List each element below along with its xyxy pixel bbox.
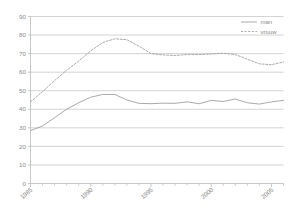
chart-container: 0102030405060708090 19851990199520002005… — [0, 0, 288, 221]
y-tick-label: 20 — [19, 143, 26, 150]
series-line-vrouw — [31, 39, 284, 102]
line-chart: 0102030405060708090 19851990199520002005… — [0, 0, 288, 221]
x-tick-label: 2005 — [260, 186, 275, 201]
y-tick-label: 90 — [19, 13, 26, 20]
x-axis-tick-labels: 19851990199520002005 — [19, 186, 275, 201]
x-tick-label: 1985 — [19, 186, 34, 201]
y-tick-label: 0 — [23, 180, 27, 187]
legend-label-man: man — [261, 19, 273, 25]
series-line-man — [31, 94, 284, 130]
data-series — [31, 39, 284, 131]
y-tick-label: 40 — [19, 105, 26, 112]
x-tick-label: 1990 — [79, 186, 94, 201]
y-tick-label: 70 — [19, 50, 26, 57]
y-tick-label: 50 — [19, 87, 26, 94]
x-tick-label: 1995 — [139, 186, 154, 201]
y-axis-tick-labels: 0102030405060708090 — [19, 13, 26, 187]
y-axis — [28, 17, 31, 184]
y-tick-label: 30 — [19, 124, 26, 131]
x-tick-label: 2000 — [199, 186, 214, 201]
y-tick-label: 80 — [19, 31, 26, 38]
grid-lines — [31, 17, 284, 165]
y-tick-label: 10 — [19, 161, 26, 168]
legend-label-vrouw: vrouw — [261, 29, 278, 35]
y-tick-label: 60 — [19, 68, 26, 75]
x-axis — [31, 184, 284, 188]
chart-legend: manvrouw — [241, 19, 277, 35]
